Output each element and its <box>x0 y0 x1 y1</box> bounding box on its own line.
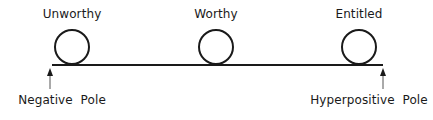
node-circle-worthy <box>199 30 233 64</box>
arrow-up-icon-right <box>380 68 386 89</box>
node-label-worthy: Worthy <box>194 7 237 21</box>
arrow-up-icon-left <box>47 68 53 89</box>
hyperpositive-pole-label: Hyperpositive Pole <box>310 93 428 107</box>
node-circle-entitled <box>342 30 376 64</box>
negative-pole-label: Negative Pole <box>18 93 106 107</box>
node-circle-unworthy <box>55 30 89 64</box>
node-label-unworthy: Unworthy <box>43 7 102 21</box>
node-label-entitled: Entitled <box>335 7 382 21</box>
